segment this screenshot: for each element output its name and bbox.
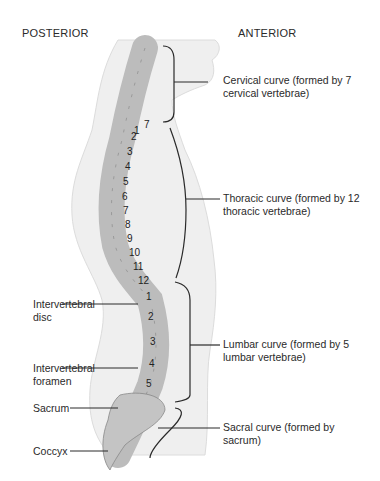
thoracic-number: 4 [125, 161, 131, 172]
intervertebral-foramen-label: Intervertebralforamen [33, 362, 95, 388]
thoracic-number: 12 [138, 275, 149, 286]
lumbar-number: 4 [149, 358, 155, 369]
lumbar-number: 3 [150, 336, 156, 347]
thoracic-number: 5 [123, 176, 129, 187]
posterior-heading: POSTERIOR [22, 27, 89, 39]
intervertebral-disc-label: Intervertebraldisc [33, 298, 95, 324]
thoracic-number: 9 [127, 233, 133, 244]
thoracic-number: 11 [133, 261, 143, 272]
cervical-curve-label: Cervical curve (formed by 7cervical vert… [223, 74, 351, 100]
lumbar-number: 1 [146, 291, 152, 302]
thoracic-number: 3 [127, 146, 133, 157]
cervical-number-7: 7 [144, 119, 150, 130]
thoracic-number: 8 [125, 219, 131, 230]
thoracic-number: 7 [123, 205, 129, 216]
thoracic-number: 2 [131, 131, 137, 142]
sacrum-label: Sacrum [33, 402, 69, 415]
lumbar-number: 5 [146, 378, 152, 389]
lumbar-number: 2 [148, 311, 154, 322]
thoracic-number: 10 [129, 247, 140, 258]
coccyx-label: Coccyx [33, 445, 67, 458]
sacral-curve-label: Sacral curve (formed bysacrum) [223, 421, 334, 447]
thoracic-curve-label: Thoracic curve (formed by 12thoracic ver… [223, 192, 360, 218]
lumbar-curve-label: Lumbar curve (formed by 5lumbar vertebra… [223, 338, 349, 364]
thoracic-number: 6 [122, 191, 128, 202]
anterior-heading: ANTERIOR [238, 27, 296, 39]
